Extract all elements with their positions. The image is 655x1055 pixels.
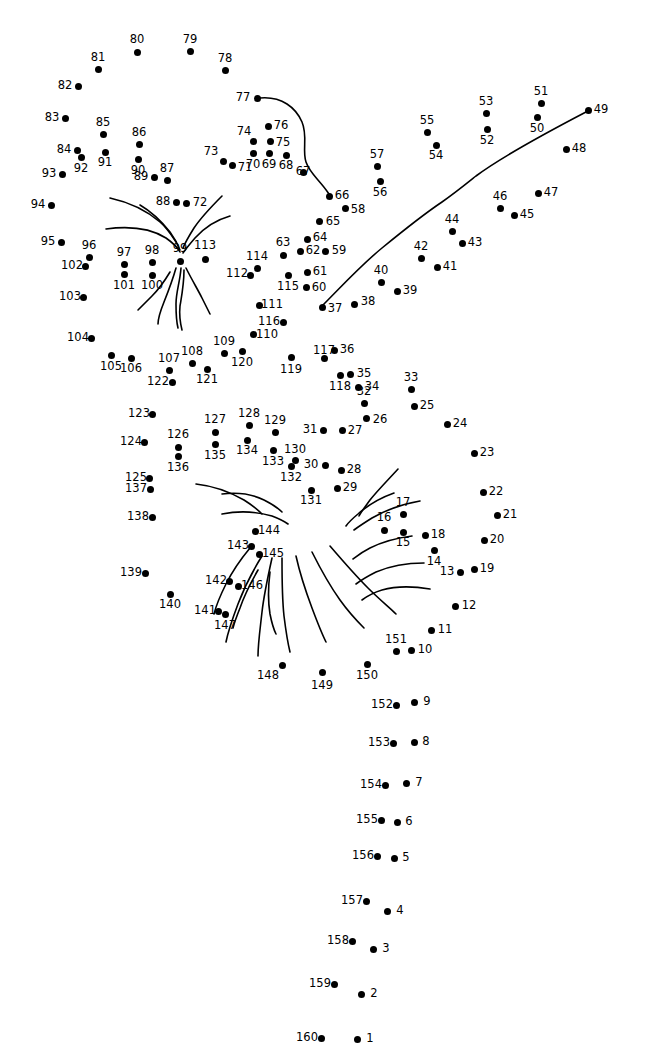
dot-number-label-66: 66 (335, 190, 350, 202)
dot-number-label-76: 76 (274, 120, 289, 132)
dot-number-label-54: 54 (429, 150, 444, 162)
dot-number-label-95: 95 (41, 236, 56, 248)
dot-number-label-144: 144 (258, 525, 280, 537)
dot-number-label-133: 133 (262, 456, 284, 468)
dot-number-label-130: 130 (284, 444, 306, 456)
dot-number-label-126: 126 (167, 429, 189, 441)
dot-number-label-69: 69 (262, 159, 277, 171)
dot-number-label-24: 24 (453, 418, 468, 430)
dot-number-label-153: 153 (368, 737, 390, 749)
dot-number-label-1: 1 (366, 1033, 373, 1045)
dot-number-label-117: 117 (313, 345, 335, 357)
dot-number-label-20: 20 (490, 534, 505, 546)
dot-number-label-9: 9 (423, 696, 430, 708)
dot-number-label-6: 6 (405, 816, 412, 828)
dot-number-label-23: 23 (480, 447, 495, 459)
dot-number-label-56: 56 (373, 187, 388, 199)
dot-number-label-52: 52 (480, 135, 495, 147)
dot-number-label-34: 34 (365, 381, 380, 393)
dot-number-label-113: 113 (194, 240, 216, 252)
dot-number-label-88: 88 (156, 196, 171, 208)
dot-number-label-4: 4 (396, 905, 403, 917)
dot-number-label-2: 2 (370, 988, 377, 1000)
dot-number-label-90: 90 (131, 165, 146, 177)
dot-number-label-22: 22 (489, 486, 504, 498)
dot-number-label-137: 137 (125, 483, 147, 495)
dot-number-label-42: 42 (414, 241, 429, 253)
dot-number-label-82: 82 (58, 80, 73, 92)
dot-number-label-86: 86 (132, 127, 147, 139)
dot-number-label-142: 142 (205, 575, 227, 587)
dot-number-label-112: 112 (226, 268, 248, 280)
dot-number-label-72: 72 (193, 197, 208, 209)
dot-number-label-104: 104 (67, 332, 89, 344)
dot-number-label-37: 37 (328, 303, 343, 315)
dot-number-label-155: 155 (356, 814, 378, 826)
dot-number-label-160: 160 (296, 1032, 318, 1044)
dot-number-label-58: 58 (351, 204, 366, 216)
dot-to-dot-puzzle-canvas: 1234567891011121314151617181920212223242… (0, 0, 655, 1055)
dot-number-label-81: 81 (91, 52, 106, 64)
dot-number-label-116: 116 (258, 316, 280, 328)
dot-number-label-15: 15 (396, 537, 411, 549)
dot-number-label-17: 17 (396, 497, 411, 509)
dot-number-label-145: 145 (262, 548, 284, 560)
dot-number-label-159: 159 (309, 978, 331, 990)
dot-number-label-150: 150 (356, 670, 378, 682)
dot-number-label-110: 110 (256, 329, 278, 341)
dot-number-label-85: 85 (96, 117, 111, 129)
dot-number-label-111: 111 (261, 299, 283, 311)
dot-number-label-108: 108 (181, 346, 203, 358)
dot-number-label-63: 63 (276, 237, 291, 249)
dot-number-label-33: 33 (404, 372, 419, 384)
dot-number-label-3: 3 (382, 943, 389, 955)
dot-number-label-21: 21 (503, 509, 518, 521)
dot-number-label-74: 74 (237, 126, 252, 138)
dot-number-label-19: 19 (480, 563, 495, 575)
dot-number-label-7: 7 (415, 777, 422, 789)
dot-number-label-44: 44 (445, 214, 460, 226)
dot-number-label-100: 100 (141, 280, 163, 292)
dot-number-label-5: 5 (402, 852, 409, 864)
dot-number-label-28: 28 (347, 464, 362, 476)
dot-number-label-147: 147 (214, 620, 236, 632)
dot-number-label-154: 154 (360, 779, 382, 791)
dot-number-label-12: 12 (462, 600, 477, 612)
dot-number-label-151: 151 (385, 634, 407, 646)
dot-number-label-122: 122 (147, 376, 169, 388)
dot-number-label-80: 80 (130, 34, 145, 46)
dot-number-label-93: 93 (42, 168, 57, 180)
dot-number-label-75: 75 (276, 137, 291, 149)
dot-number-label-109: 109 (213, 336, 235, 348)
dot-number-label-65: 65 (326, 216, 341, 228)
dot-number-label-118: 118 (329, 381, 351, 393)
dot-number-label-123: 123 (128, 408, 150, 420)
dot-number-label-38: 38 (361, 296, 376, 308)
dot-number-label-50: 50 (530, 123, 545, 135)
dot-number-label-16: 16 (377, 512, 392, 524)
dot-number-label-57: 57 (370, 149, 385, 161)
dot-number-label-99: 99 (173, 243, 188, 255)
dot-number-label-98: 98 (145, 245, 160, 257)
dot-number-label-18: 18 (431, 529, 446, 541)
dot-labels-layer: 1234567891011121314151617181920212223242… (0, 0, 655, 1055)
dot-number-label-30: 30 (304, 459, 319, 471)
dot-number-label-29: 29 (343, 482, 358, 494)
dot-number-label-134: 134 (236, 445, 258, 457)
dot-number-label-96: 96 (82, 240, 97, 252)
dot-number-label-8: 8 (422, 736, 429, 748)
dot-number-label-71: 71 (238, 162, 253, 174)
dot-number-label-83: 83 (45, 112, 60, 124)
dot-number-label-141: 141 (194, 605, 216, 617)
dot-number-label-84: 84 (57, 144, 72, 156)
dot-number-label-157: 157 (341, 895, 363, 907)
dot-number-label-77: 77 (236, 92, 251, 104)
dot-number-label-31: 31 (303, 424, 318, 436)
dot-number-label-131: 131 (300, 495, 322, 507)
dot-number-label-103: 103 (59, 291, 81, 303)
dot-number-label-135: 135 (204, 450, 226, 462)
dot-number-label-138: 138 (127, 511, 149, 523)
dot-number-label-115: 115 (277, 281, 299, 293)
dot-number-label-128: 128 (238, 408, 260, 420)
dot-number-label-143: 143 (227, 540, 249, 552)
